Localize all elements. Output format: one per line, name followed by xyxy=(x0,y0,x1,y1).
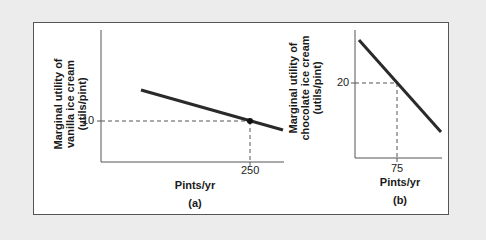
panel-b-ylabel-line1: Marginal utility of xyxy=(287,23,299,153)
panel-a-axes xyxy=(97,30,284,166)
panel-a-ylabel-line2: vanilla ice cream xyxy=(64,39,76,169)
panel-b-ylabel-line2: chocolate ice cream xyxy=(299,23,311,153)
panel-a-ylabel: Marginal utility of vanilla ice cream (u… xyxy=(52,39,88,169)
panel-b-xtick: 75 xyxy=(391,162,403,174)
panel-a-ytick: 10 xyxy=(82,114,94,126)
panel-b-reference-lines xyxy=(355,83,397,158)
panel-a-label: (a) xyxy=(170,197,220,209)
panel-b-label: (b) xyxy=(375,194,425,206)
panel-b-ytick: 20 xyxy=(337,76,349,88)
panel-a-xlabel: Pints/yr xyxy=(160,179,230,191)
panel-b-ylabel: Marginal utility of chocolate ice cream … xyxy=(287,23,323,153)
panel-a-ylabel-line1: Marginal utility of xyxy=(52,39,64,169)
panel-a-ylabel-line3: (utils/pint) xyxy=(76,39,88,169)
panel-b-xlabel: Pints/yr xyxy=(365,176,435,188)
panel-b-mu-line xyxy=(359,40,441,132)
panel-a-reference-lines xyxy=(101,121,250,162)
panel-b-ylabel-line3: (utils/pint) xyxy=(311,23,323,153)
panel-a-xtick: 250 xyxy=(241,164,259,176)
panel-a-equilibrium-point xyxy=(247,118,253,124)
panel-a-mu-line xyxy=(141,90,283,130)
